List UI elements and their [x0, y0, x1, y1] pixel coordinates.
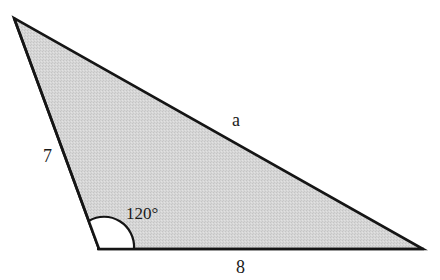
side-bottom-label: 8: [236, 258, 245, 276]
side-hypotenuse-label: a: [232, 111, 240, 129]
triangle-diagram: 7 8 a 120°: [0, 0, 440, 280]
side-left-label: 7: [43, 147, 52, 165]
triangle-svg: [0, 0, 440, 280]
angle-label: 120°: [126, 205, 158, 222]
triangle-shape: [14, 18, 423, 249]
